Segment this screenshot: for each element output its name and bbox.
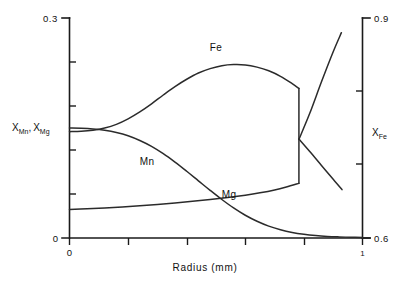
right-axis-bottom-label: 0.6 — [374, 233, 389, 244]
right-axis-top-label: 0.9 — [374, 13, 389, 24]
right-axis-title: XFe — [372, 127, 387, 140]
curve-mn — [70, 128, 363, 237]
curve-fe-segment-1 — [70, 65, 299, 132]
right-axis-ticks — [356, 91, 363, 164]
left-axis-title: XMn,XMg — [12, 122, 50, 136]
x-axis-origin-label: 0 — [67, 247, 72, 258]
left-axis-top-label: 0.3 — [43, 13, 58, 24]
left-axis-title-sub-mg: Mg — [40, 128, 50, 136]
curve-mg-segment-2 — [299, 33, 341, 140]
x-axis-title: Radius (mm) — [173, 262, 238, 273]
curve-label-fe: Fe — [210, 42, 223, 53]
right-axis-title-sub-fe: Fe — [379, 133, 387, 140]
curve-label-mg: Mg — [222, 189, 237, 200]
curve-fe-segment-2 — [299, 139, 342, 190]
curve-label-mn: Mn — [140, 156, 155, 167]
left-axis-title-sub-mn: Mn — [19, 128, 29, 135]
x-axis-end-label: 1 — [360, 249, 365, 258]
svg-text:XFe: XFe — [372, 127, 387, 140]
curve-mg-segment-1 — [70, 183, 299, 209]
svg-text:XMn,XMg: XMn,XMg — [12, 122, 50, 136]
curves-group — [70, 33, 363, 238]
left-axis-title-comma: , — [28, 122, 31, 133]
left-axis-bottom-label: 0 — [53, 233, 58, 244]
x-axis-ticks — [70, 238, 363, 245]
chart-figure: 0.3 0 0.9 0.6 0 1 XMn,XMg XFe Radius (mm… — [0, 0, 406, 282]
